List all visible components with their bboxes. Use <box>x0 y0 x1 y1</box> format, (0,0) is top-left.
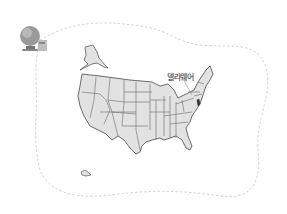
hawaii-shape <box>81 170 91 176</box>
map-svg <box>0 0 287 214</box>
map-illustration: 델라웨어 <box>0 0 287 214</box>
alaska-shape <box>80 45 108 70</box>
state-label: 델라웨어 <box>167 71 194 82</box>
globe-icon <box>20 26 47 51</box>
